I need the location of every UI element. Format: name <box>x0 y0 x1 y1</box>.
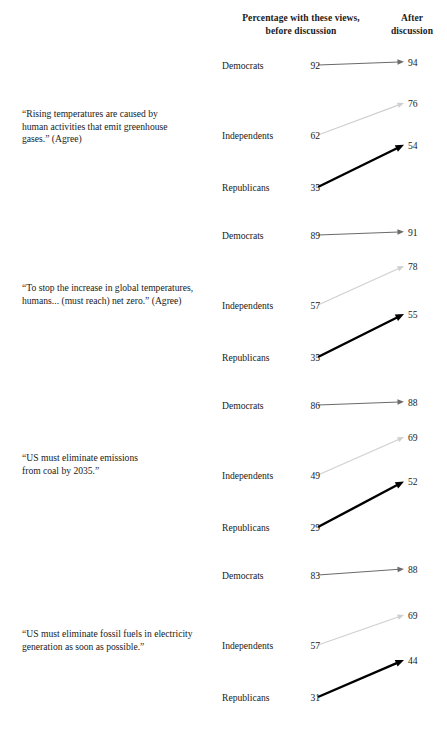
question-caption-line: “US must eliminate emissions <box>22 452 138 463</box>
arrowhead-republicans <box>395 314 404 321</box>
question-group: “US must eliminate fossil fuels in elect… <box>0 560 447 735</box>
slope-line-independents <box>318 439 400 475</box>
after-value-republicans: 55 <box>408 309 434 320</box>
column-header-before-line1: Percentage with these views, <box>242 13 360 23</box>
before-value-republicans: 35 <box>300 182 320 193</box>
question-caption: “US must eliminate fossil fuels in elect… <box>22 628 218 653</box>
arrowhead-republicans <box>395 481 404 488</box>
question-caption: “Rising temperatures are caused byhuman … <box>22 108 218 146</box>
before-value-democrats: 89 <box>300 230 320 241</box>
question-caption-line: gases.” (Agree) <box>22 133 82 144</box>
before-value-independents: 57 <box>300 640 320 651</box>
column-header-after: After discussion <box>380 12 444 38</box>
question-group: “To stop the increase in global temperat… <box>0 220 447 385</box>
slope-line-independents <box>318 617 400 645</box>
party-label-independents: Independents <box>222 640 306 651</box>
question-caption: “To stop the increase in global temperat… <box>22 282 218 307</box>
arrowhead-democrats <box>397 229 404 234</box>
slope-line-democrats <box>318 62 399 65</box>
slope-line-independents <box>318 105 400 135</box>
slope-line-democrats <box>318 402 399 405</box>
question-caption-line: “To stop the increase in global temperat… <box>22 282 193 293</box>
before-value-democrats: 92 <box>300 60 320 71</box>
after-value-independents: 69 <box>408 610 434 621</box>
party-label-democrats: Democrats <box>222 570 306 581</box>
slope-line-republicans <box>318 484 399 527</box>
after-value-democrats: 91 <box>408 226 434 237</box>
slope-line-republicans <box>318 317 399 357</box>
slope-line-democrats <box>318 232 399 235</box>
after-value-independents: 76 <box>408 98 434 109</box>
party-label-independents: Independents <box>222 130 306 141</box>
party-label-democrats: Democrats <box>222 230 306 241</box>
after-value-democrats: 88 <box>408 564 434 575</box>
arrowhead-democrats <box>397 567 404 572</box>
arrowhead-independents <box>397 266 404 271</box>
question-caption-line: “US must eliminate fossil fuels in elect… <box>22 628 193 639</box>
before-value-democrats: 83 <box>300 570 320 581</box>
party-label-democrats: Democrats <box>222 400 306 411</box>
party-label-democrats: Democrats <box>222 60 306 71</box>
question-group: “Rising temperatures are caused byhuman … <box>0 50 447 215</box>
question-caption: “US must eliminate emissionsfrom coal by… <box>22 452 218 477</box>
question-caption-line: “Rising temperatures are caused by <box>22 108 158 119</box>
column-header-before: Percentage with these views, before disc… <box>218 12 384 38</box>
slope-line-independents <box>318 268 400 305</box>
party-label-independents: Independents <box>222 300 306 311</box>
before-value-democrats: 86 <box>300 400 320 411</box>
question-caption-line: generation as soon as possible.” <box>22 641 144 652</box>
before-value-independents: 57 <box>300 300 320 311</box>
arrowhead-republicans <box>395 145 404 152</box>
after-value-republicans: 54 <box>408 139 434 150</box>
party-label-republicans: Republicans <box>222 352 306 363</box>
after-value-independents: 69 <box>408 432 434 443</box>
before-value-republicans: 35 <box>300 352 320 363</box>
slope-line-democrats <box>318 569 399 575</box>
before-value-independents: 62 <box>300 130 320 141</box>
arrowhead-independents <box>397 615 404 620</box>
party-label-republicans: Republicans <box>222 182 306 193</box>
arrowhead-independents <box>397 103 404 108</box>
slope-line-republicans <box>318 662 398 697</box>
party-label-independents: Independents <box>222 470 306 481</box>
after-value-democrats: 94 <box>408 56 434 67</box>
arrowhead-democrats <box>397 59 404 64</box>
party-label-republicans: Republicans <box>222 692 306 703</box>
before-value-independents: 49 <box>300 470 320 481</box>
chart-header: Percentage with these views, before disc… <box>0 12 447 46</box>
column-header-before-line2: before discussion <box>266 26 337 36</box>
party-label-republicans: Republicans <box>222 522 306 533</box>
column-header-after-line1: After <box>401 13 423 23</box>
after-value-democrats: 88 <box>408 396 434 407</box>
arrowhead-independents <box>397 437 404 442</box>
question-caption-line: humans... (must reach) net zero.” (Agree… <box>22 295 182 306</box>
arrowhead-democrats <box>397 399 404 404</box>
question-group: “US must eliminate emissionsfrom coal by… <box>0 390 447 555</box>
question-caption-line: human activities that emit greenhouse <box>22 121 167 132</box>
after-value-republicans: 44 <box>408 654 434 665</box>
arrowhead-republicans <box>395 660 404 667</box>
after-value-independents: 78 <box>408 261 434 272</box>
question-caption-line: from coal by 2035.” <box>22 465 99 476</box>
after-value-republicans: 52 <box>408 476 434 487</box>
column-header-after-line2: discussion <box>391 26 433 36</box>
before-value-republicans: 29 <box>300 522 320 533</box>
slope-line-republicans <box>318 148 399 187</box>
before-value-republicans: 31 <box>300 692 320 703</box>
